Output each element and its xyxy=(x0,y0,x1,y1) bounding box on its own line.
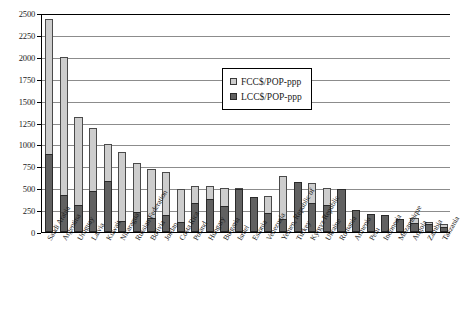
bar-chart: 25002250200017501500125010007505002500 F… xyxy=(0,0,465,310)
bar-group[interactable] xyxy=(104,144,112,232)
bar-segment-fcc[interactable] xyxy=(118,152,126,221)
y-tick-label: 1250 xyxy=(19,119,35,128)
legend-label-lcc: LCC$/POP-ppp xyxy=(241,92,302,102)
legend-label-fcc: FCC$/POP-ppp xyxy=(241,77,301,87)
bar-segment-fcc[interactable] xyxy=(206,186,214,198)
bar-segment-fcc[interactable] xyxy=(220,188,228,206)
y-tick-label: 250 xyxy=(23,207,35,216)
bar-segment-fcc[interactable] xyxy=(89,128,97,192)
bar-segment-fcc[interactable] xyxy=(74,117,82,205)
legend-swatch-fcc-icon xyxy=(230,78,237,85)
y-tick-label: 1000 xyxy=(19,141,35,150)
bar-segment-fcc[interactable] xyxy=(133,163,141,212)
bar-segment-lcc[interactable] xyxy=(45,154,53,232)
legend-item-fcc: FCC$/POP-ppp xyxy=(230,74,302,89)
bar-segment-fcc[interactable] xyxy=(191,186,199,203)
y-tick-label: 2000 xyxy=(19,54,35,63)
y-tick-label: 2500 xyxy=(19,10,35,19)
plot-area xyxy=(41,14,450,233)
bar-series-container xyxy=(42,14,450,232)
bar-segment-fcc[interactable] xyxy=(264,196,272,213)
y-tick-label: 2250 xyxy=(19,32,35,41)
y-tick-label: 500 xyxy=(23,185,35,194)
bar-segment-fcc[interactable] xyxy=(104,144,112,181)
legend-item-lcc: LCC$/POP-ppp xyxy=(230,89,302,104)
bar-group[interactable] xyxy=(45,19,53,232)
legend-swatch-lcc-icon xyxy=(230,93,237,100)
bar-segment-fcc[interactable] xyxy=(60,57,68,195)
y-tick-label: 1500 xyxy=(19,97,35,106)
bar-segment-fcc[interactable] xyxy=(177,189,185,222)
y-tick-label: 1750 xyxy=(19,75,35,84)
x-axis-labels: Saudi ArabiaArgentinaUruguayLatviaKuwait… xyxy=(0,233,465,310)
y-axis: 25002250200017501500125010007505002500 xyxy=(0,0,41,233)
chart-legend: FCC$/POP-ppp LCC$/POP-ppp xyxy=(222,68,312,110)
y-tick-label: 750 xyxy=(23,163,35,172)
bar-segment-fcc[interactable] xyxy=(45,19,53,154)
